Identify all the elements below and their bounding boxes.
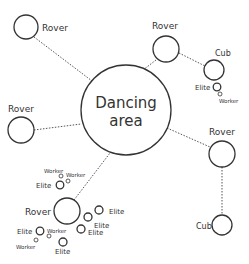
rover-top-right[interactable]: Rover [152, 21, 179, 62]
rover-right[interactable]: Rover [209, 127, 235, 167]
elite-circle [36, 227, 44, 235]
elite-label: Elite [17, 228, 32, 236]
elite-label: Elite [109, 208, 124, 216]
rover-circle [14, 15, 38, 39]
elite-label: Elite [195, 84, 210, 92]
elite-label: Elite [88, 229, 103, 237]
cub-bottom-right[interactable]: Cub [196, 215, 232, 235]
cub-circle [212, 215, 232, 235]
worker-label: Worker [47, 228, 67, 234]
worker-circle [34, 238, 38, 242]
rover-label: Rover [42, 23, 68, 33]
elite-b[interactable]: Elite [95, 206, 124, 216]
elite-circle [77, 225, 85, 233]
worker-circle [218, 92, 222, 96]
worker-circle [47, 234, 51, 238]
cub-label: Cub [196, 222, 212, 231]
rover-label: Rover [8, 104, 34, 114]
worker-label: Worker [219, 98, 239, 104]
cub-top-right[interactable]: Cub [204, 49, 231, 80]
link-center-rover-right [167, 128, 210, 147]
elite-circle [95, 206, 103, 214]
elite-f[interactable]: Elite [55, 238, 70, 256]
worker-d[interactable]: Worker [16, 238, 38, 250]
elite-top-right[interactable]: Elite [195, 83, 221, 92]
dancing-area-label-1: Dancing [95, 94, 157, 112]
elite-c[interactable]: Elite [84, 213, 109, 230]
elite-e[interactable]: Elite [17, 227, 44, 236]
elite-circle [59, 238, 67, 246]
dancing-area-label-2: area [109, 112, 142, 130]
worker-circle [66, 179, 70, 183]
elite-label: Elite [55, 248, 70, 256]
worker-c[interactable]: Worker [47, 228, 67, 238]
rover-label: Rover [152, 21, 178, 31]
cub-circle [204, 60, 224, 80]
worker-b[interactable]: Worker [66, 172, 86, 183]
rover-circle [8, 117, 34, 143]
worker-a[interactable]: Worker [44, 168, 64, 178]
link-center-rover-left [34, 124, 81, 130]
elite-circle [56, 181, 64, 189]
elite-label: Elite [36, 182, 51, 190]
worker-label: Worker [16, 244, 36, 250]
rover-bottom-left[interactable]: Rover [25, 198, 80, 224]
worker-label: Worker [44, 168, 64, 174]
link-center-rover-top-left [34, 37, 96, 84]
rover-left[interactable]: Rover [8, 104, 34, 143]
rover-circle [209, 141, 235, 167]
rover-circle [54, 198, 80, 224]
rover-label: Rover [25, 207, 51, 217]
elite-circle [84, 213, 92, 221]
worker-top-right[interactable]: Worker [218, 92, 239, 104]
diagram-canvas: Dancing area Rover Rover Cub Elite Worke… [0, 0, 249, 264]
elite-a[interactable]: Elite [36, 181, 64, 190]
elite-circle [213, 83, 221, 91]
dancing-area[interactable]: Dancing area [81, 65, 171, 155]
rover-top-left[interactable]: Rover [14, 15, 68, 39]
rover-label: Rover [209, 127, 235, 137]
cub-label: Cub [215, 49, 231, 58]
rover-circle [153, 36, 179, 62]
link-rover-cub-top-right [179, 53, 205, 66]
worker-label: Worker [66, 172, 86, 178]
worker-circle [59, 174, 63, 178]
